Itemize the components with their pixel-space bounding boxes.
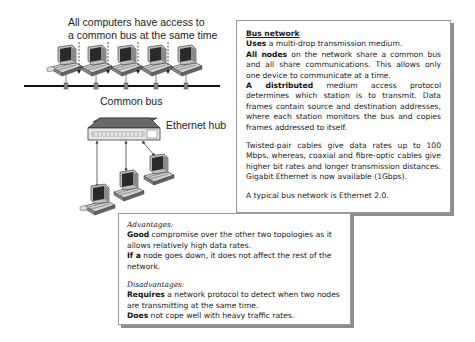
bus-protocol-paragraph: A distributed medium access protocol det… [246, 81, 441, 133]
bus-all-nodes-paragraph: All nodes on the network share a common … [246, 50, 441, 81]
hub-computers [85, 154, 174, 215]
advantages-heading: Advantages: [127, 220, 342, 230]
bus-computers [52, 45, 202, 76]
bus-network-title: Bus network [246, 29, 441, 39]
disadvantages-heading: Disadvantages: [127, 280, 342, 290]
disadvantage-item: Requires a network protocol to detect wh… [127, 290, 342, 311]
bus-uses-paragraph: Uses a multi-drop transmission medium. [246, 39, 441, 49]
bus-typical-paragraph: A typical bus network is Ethernet 2.0. [246, 191, 441, 201]
advantage-item: Good compromise over the other two topol… [127, 230, 342, 251]
advantage-item: If a node goes down, it does not affect … [127, 251, 342, 272]
bus-network-info-box: Bus network Uses a multi-drop transmissi… [236, 20, 451, 213]
ethernet-hub [88, 118, 160, 140]
disadvantage-item: Does not cope well with heavy traffic ra… [127, 311, 342, 321]
bus-cables-paragraph: Twisted-pair cables give data rates up t… [246, 141, 441, 183]
pros-cons-box: Advantages: Good compromise over the oth… [118, 213, 351, 325]
